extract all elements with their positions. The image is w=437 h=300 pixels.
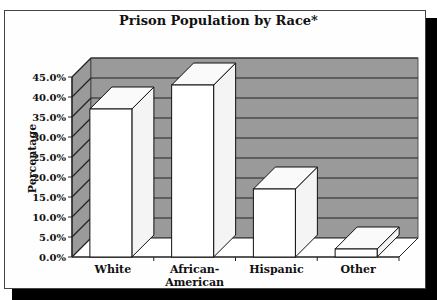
bar-hispanic bbox=[253, 189, 295, 257]
bar-side bbox=[214, 63, 236, 257]
bar-african-american bbox=[172, 85, 214, 257]
chart-plot: 0.0%5.0%10.0%15.0%20.0%25.0%30.0%35.0%40… bbox=[0, 0, 437, 300]
y-tick-label: 40.0% bbox=[32, 92, 66, 103]
y-tick-label: 25.0% bbox=[32, 152, 66, 163]
bar-side bbox=[132, 87, 154, 257]
y-tick-label: 5.0% bbox=[39, 232, 66, 243]
y-tick-label: 20.0% bbox=[32, 172, 66, 183]
x-category-label: African- bbox=[169, 263, 219, 276]
y-tick-label: 35.0% bbox=[32, 112, 66, 123]
x-category-label: American bbox=[164, 276, 224, 289]
y-tick-label: 10.0% bbox=[32, 212, 66, 223]
y-tick-label: 45.0% bbox=[32, 72, 66, 83]
y-tick-label: 0.0% bbox=[39, 252, 66, 263]
bar-other bbox=[335, 249, 377, 257]
x-category-label: White bbox=[94, 263, 132, 276]
bar-white bbox=[90, 109, 132, 257]
x-category-label: Hispanic bbox=[249, 263, 304, 276]
y-tick-label: 15.0% bbox=[32, 192, 66, 203]
x-category-label: Other bbox=[340, 263, 376, 276]
y-tick-label: 30.0% bbox=[32, 132, 66, 143]
